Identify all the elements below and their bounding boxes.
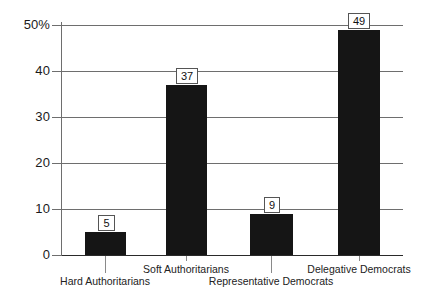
category-label-delegative-democrats: Delegative Democrats (307, 263, 410, 275)
y-axis-label-0: 0 (4, 248, 50, 261)
leader-line-delegative-democrats (359, 256, 360, 261)
category-label-representative-democrats: Representative Democrats (209, 275, 333, 287)
y-axis-label-50: 50% (4, 18, 50, 31)
axis-baseline (61, 255, 403, 256)
value-label-delegative-democrats: 49 (348, 13, 370, 29)
category-label-hard-authoritarians: Hard Authoritarians (60, 275, 150, 287)
y-axis-label-40: 40 (4, 64, 50, 77)
y-tick-30 (52, 117, 61, 118)
bar-chart: 50% 40 30 20 10 0 5 37 9 49 Hard Authori… (0, 0, 423, 300)
bar-hard-authoritarians (85, 232, 126, 255)
y-axis-label-10: 10 (4, 202, 50, 215)
bar-delegative-democrats (338, 30, 380, 255)
y-axis-label-20: 20 (4, 156, 50, 169)
value-label-representative-democrats: 9 (264, 197, 280, 213)
y-tick-0 (52, 255, 61, 256)
y-tick-20 (52, 163, 61, 164)
value-label-soft-authoritarians: 37 (176, 68, 198, 84)
bar-representative-democrats (250, 214, 293, 255)
leader-line-representative-democrats (271, 256, 272, 273)
value-label-hard-authoritarians: 5 (98, 215, 115, 231)
bar-soft-authoritarians (166, 85, 207, 255)
y-axis-line (61, 22, 62, 256)
y-axis-label-30: 30 (4, 110, 50, 123)
y-tick-10 (52, 209, 61, 210)
leader-line-hard-authoritarians (105, 256, 106, 273)
leader-line-soft-authoritarians (186, 256, 187, 261)
y-tick-50 (52, 25, 61, 26)
category-label-soft-authoritarians: Soft Authoritarians (143, 263, 229, 275)
y-tick-40 (52, 71, 61, 72)
